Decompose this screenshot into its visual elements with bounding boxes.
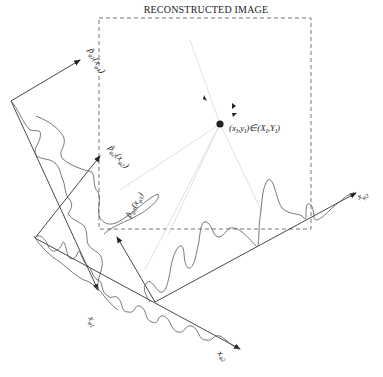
axis-label-phi2: xφ2 [214,347,230,363]
projection-phi3: p̃φ3(xφ3) xφ3 [34,60,370,310]
x-axis-phi1 [11,101,98,290]
axis-label-phi3: xφ3 [354,188,369,203]
x-axis-phi2 [35,238,240,349]
profile-axis-phi2 [35,156,100,238]
profile-axis-phi1 [11,60,80,101]
profile-label-phi1: p̃φ1(xφ1) [85,45,108,75]
reconstructed-image-box: RECONSTRUCTED IMAGE [99,4,311,229]
profile-curve-phi1 [11,101,102,290]
reconstruction-point: (xI,yI)∈(XI,YI) [203,95,280,134]
profile-curve-phi3-lower [34,236,118,310]
x-axis-phi3 [155,193,356,302]
projection-phi1: p̃φ1(xφ1) xφ1 [11,45,108,328]
backprojection-rays [120,40,262,270]
tomography-diagram: RECONSTRUCTED IMAGE (xI,yI)∈(XI,YI) p̃φ1… [0,0,383,377]
point-label: (xI,yI)∈(XI,YI) [229,123,280,134]
axis-label-phi1: xφ1 [85,313,100,328]
profile-curve-phi2-upper [36,116,158,234]
diagram-title: RECONSTRUCTED IMAGE [144,4,269,15]
profile-label-phi2: p̃φ2(xφ2) [105,142,132,171]
profile-curve-phi3 [144,180,354,302]
projection-phi2: p̃φ2(xφ2) xφ2 [35,116,240,363]
profile-label-phi3: p̃φ3(xφ3) [123,190,147,220]
